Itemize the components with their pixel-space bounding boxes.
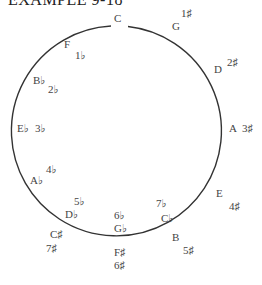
key-signature-label: 4♯ xyxy=(229,201,240,212)
key-signature-label: 5♭ xyxy=(74,196,85,207)
key-signature-label: 3♯ xyxy=(242,123,253,134)
key-signature-label: 1♭ xyxy=(75,50,86,61)
key-note-label: A xyxy=(229,123,237,134)
key-note-label: A♭ xyxy=(30,175,43,186)
key-signature-label: 7♯ xyxy=(46,243,57,254)
key-signature-label: 7♭ xyxy=(156,198,167,209)
key-signature-label: 4♭ xyxy=(46,164,57,175)
key-note-label: F xyxy=(64,39,70,50)
key-signature-label: 2♯ xyxy=(227,57,238,68)
key-signature-label: 3♭ xyxy=(35,123,46,134)
key-note-label: D♭ xyxy=(65,209,78,220)
key-signature-label: 5♯ xyxy=(183,245,194,256)
key-note-label: D xyxy=(214,64,222,75)
key-note-label: C xyxy=(114,13,121,24)
key-signature-label: 6♯ xyxy=(114,260,125,271)
key-signature-label: 1♯ xyxy=(181,8,192,19)
key-note-label: G xyxy=(172,21,180,32)
circle-of-fifths-ring xyxy=(0,0,262,285)
key-note-label: B xyxy=(172,232,179,243)
key-note-label: B♭ xyxy=(33,75,46,86)
key-note-label: G♭ xyxy=(114,223,127,234)
key-note-label: C♯ xyxy=(50,229,63,240)
key-signature-label: 6♭ xyxy=(114,210,125,221)
key-note-label: E♭ xyxy=(17,123,29,134)
key-note-label: E xyxy=(216,188,223,199)
key-signature-label: 2♭ xyxy=(48,84,59,95)
key-note-label: C♭ xyxy=(161,213,174,224)
key-note-label: F♯ xyxy=(114,247,126,258)
